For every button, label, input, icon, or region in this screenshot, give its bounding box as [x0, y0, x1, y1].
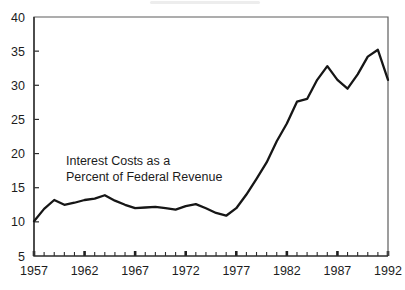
chart-background — [0, 0, 405, 290]
x-tick-label: 1962 — [71, 264, 99, 278]
y-tick-label: 35 — [11, 45, 25, 59]
annotation-line-1: Interest Costs as a — [66, 154, 170, 168]
x-tick-label: 1982 — [273, 264, 301, 278]
y-tick-label: 30 — [11, 79, 25, 93]
y-tick-label: 10 — [11, 215, 25, 229]
y-tick-label: 15 — [11, 181, 25, 195]
annotation-line-2: Percent of Federal Revenue — [66, 170, 222, 184]
y-tick-label: 5 — [18, 250, 25, 264]
x-tick-label: 1972 — [172, 264, 200, 278]
x-tick-label: 1987 — [324, 264, 352, 278]
x-tick-label: 1957 — [20, 264, 48, 278]
chart-svg: 403530252015105 195719621967197219771982… — [0, 0, 405, 290]
x-tick-label: 1992 — [374, 264, 402, 278]
x-tick-label: 1977 — [222, 264, 250, 278]
scan-artifact-top — [150, 1, 260, 4]
y-tick-label: 40 — [11, 11, 25, 25]
x-tick-label: 1967 — [121, 264, 149, 278]
y-tick-label: 25 — [11, 113, 25, 127]
chart-figure: 403530252015105 195719621967197219771982… — [0, 0, 405, 290]
y-tick-label: 20 — [11, 147, 25, 161]
